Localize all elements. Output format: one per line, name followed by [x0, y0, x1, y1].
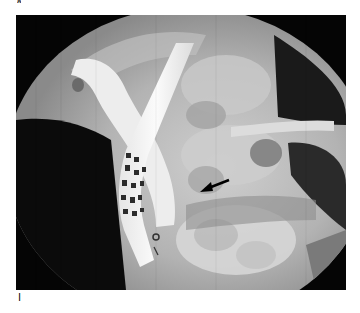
partial-figure-label: a — [17, 0, 21, 3]
panel-label: I — [18, 291, 21, 303]
radiograph-image — [16, 15, 346, 290]
